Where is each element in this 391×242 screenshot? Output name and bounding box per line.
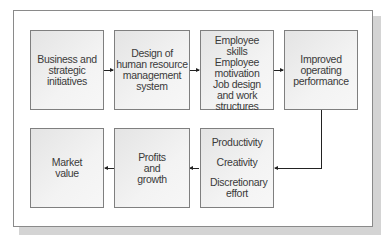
- box-employee-outcomes: Productivity Creativity Discretionary ef…: [200, 128, 274, 208]
- box-profits-growth: Profits and growth: [114, 128, 190, 208]
- arrow-left: [105, 168, 114, 169]
- box-hr-system-design: Design of human resource management syst…: [114, 30, 190, 110]
- box-text: value: [55, 168, 79, 179]
- box-text: Profits: [138, 152, 166, 163]
- box-text: Employee motivation: [209, 57, 265, 79]
- box-text: Improved: [300, 54, 341, 65]
- arrow-left: [190, 168, 199, 169]
- box-text: Business and: [37, 54, 96, 65]
- box-text: Employee skills: [207, 35, 267, 57]
- box-text: and: [144, 163, 161, 174]
- box-text: Discretionary effort: [210, 177, 264, 199]
- box-text: initiatives: [47, 76, 87, 87]
- box-text: system: [136, 81, 167, 92]
- box-text: strategic: [49, 65, 86, 76]
- box-text: Job design and work structures: [204, 79, 270, 112]
- box-employee-factors: Employee skills Employee motivation Job …: [200, 30, 274, 110]
- arrow-right: [274, 70, 283, 71]
- box-market-value: Market value: [30, 128, 104, 208]
- box-text: Creativity: [217, 157, 258, 168]
- box-text: operating: [300, 65, 341, 76]
- box-text: growth: [137, 174, 167, 185]
- connector-line: [321, 110, 322, 169]
- box-text: performance: [293, 76, 349, 87]
- box-business-strategic-initiatives: Business and strategic initiatives: [30, 30, 104, 110]
- arrow-left: [275, 168, 322, 169]
- arrow-right: [104, 70, 113, 71]
- arrow-right: [190, 70, 199, 71]
- box-improved-operating-performance: Improved operating performance: [284, 30, 358, 110]
- box-text: Productivity: [212, 137, 263, 148]
